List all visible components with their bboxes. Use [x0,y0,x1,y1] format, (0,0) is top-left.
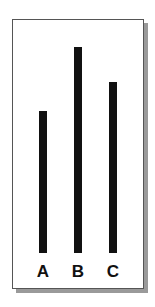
label-a: A [33,262,53,282]
bar-b [74,47,82,253]
label-b: B [68,262,88,282]
label-c: C [103,262,123,282]
bar-c [109,82,117,253]
bar-a [39,111,47,253]
